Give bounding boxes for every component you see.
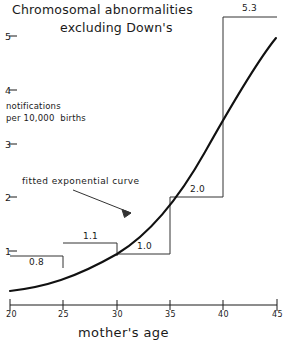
y-tick-label-3: 3	[5, 139, 11, 150]
fitted-curve	[10, 38, 276, 291]
y-axis-label-line-1: notifications	[6, 101, 61, 111]
chart-title-line-2: excluding Down's	[60, 20, 173, 35]
chart-figure: Chromosomal abnormalities excluding Down…	[0, 0, 291, 348]
annotation-arrow	[73, 190, 131, 218]
x-axis-label: mother's age	[78, 325, 169, 340]
x-tick-label-35: 35	[165, 310, 176, 319]
y-tick-label-1: 1	[5, 246, 11, 257]
chart-title-line-1: Chromosomal abnormalities	[12, 2, 193, 17]
step-value-1-1: 1.1	[83, 231, 98, 241]
y-tick-label-4: 4	[5, 85, 11, 96]
y-tick-label-2: 2	[5, 192, 11, 203]
chart-canvas	[0, 0, 291, 348]
step-value-5-3: 5.3	[242, 3, 257, 13]
curve-annotation-label: fitted exponential curve	[22, 176, 139, 186]
y-tick-label-5: 5	[5, 31, 11, 42]
step-value-1-0: 1.0	[137, 241, 152, 251]
x-tick-label-40: 40	[218, 310, 229, 319]
step-value-2-0: 2.0	[190, 184, 205, 194]
x-tick-label-20: 20	[6, 310, 17, 319]
step-value-0-8: 0.8	[29, 257, 44, 267]
step-brackets	[10, 17, 277, 268]
x-tick-label-30: 30	[112, 310, 123, 319]
x-tick-label-25: 25	[58, 310, 69, 319]
y-axis-label-line-2: per 10,000 births	[6, 113, 86, 123]
x-tick-label-45: 45	[272, 310, 283, 319]
x-axis	[10, 299, 277, 311]
